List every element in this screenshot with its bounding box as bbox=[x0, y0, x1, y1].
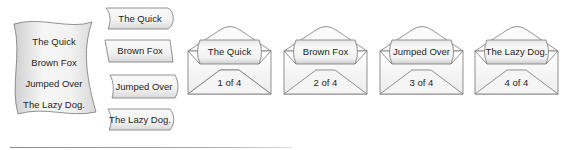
envelope-page-4: 4 of 4 bbox=[483, 77, 550, 88]
tag-label-1: The Quick bbox=[108, 13, 172, 24]
envelope-card-label-2: Brown Fox bbox=[292, 46, 359, 57]
scroll-line-3: Jumped Over bbox=[12, 78, 96, 89]
envelope-page-1: 1 of 4 bbox=[196, 77, 263, 88]
envelope-page-3: 3 of 4 bbox=[388, 77, 455, 88]
tag-label-2: Brown Fox bbox=[107, 45, 173, 56]
scroll-line-2: Brown Fox bbox=[12, 57, 96, 68]
scroll-line-4: The Lazy Dog. bbox=[12, 99, 96, 110]
envelope-card-label-4: The Lazy Dog. bbox=[483, 46, 550, 57]
scroll: The Quick Brown Fox Jumped Over The Lazy… bbox=[12, 26, 96, 114]
envelope-page-2: 2 of 4 bbox=[292, 77, 359, 88]
envelope-card-label-1: The Quick bbox=[196, 46, 263, 57]
scroll-line-1: The Quick bbox=[12, 36, 96, 47]
tag-label-3: Jumped Over bbox=[111, 81, 177, 92]
envelope-card-label-3: Jumped Over bbox=[388, 46, 455, 57]
bottom-divider bbox=[10, 147, 292, 148]
tag-label-4: The Lazy Dog. bbox=[108, 114, 172, 125]
